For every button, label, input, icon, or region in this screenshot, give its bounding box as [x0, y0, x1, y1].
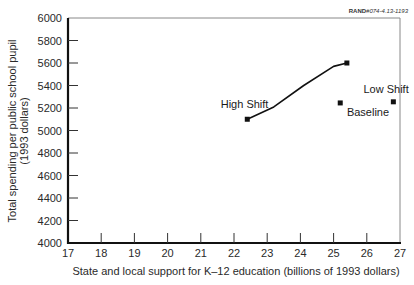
y-axis: 4000420044004600480050005200540056005800…	[38, 12, 78, 249]
x-tick-label: 27	[394, 247, 406, 259]
x-axis: 1718192021222324252627	[62, 233, 406, 259]
y-tick-label: 4400	[38, 192, 62, 204]
y-tick-label: 6000	[38, 12, 62, 24]
x-tick-label: 26	[361, 247, 373, 259]
x-tick-label: 17	[62, 247, 74, 259]
low-shift-marker	[391, 99, 396, 104]
x-tick-label: 24	[294, 247, 306, 259]
annotations: High ShiftBaselineLow Shift	[221, 83, 409, 118]
chart: 4000420044004600480050005200540056005800…	[0, 0, 414, 285]
y-tick-label: 4800	[38, 147, 62, 159]
figure-code: RAND#074-4.13-1193	[349, 8, 409, 14]
y-axis-title: Total spending per public school pupil	[6, 40, 18, 223]
y-axis-title-units: (1993 dollars)	[18, 97, 30, 164]
annotation-low-shift: Low Shift	[363, 83, 408, 95]
y-tick-label: 5400	[38, 80, 62, 92]
y-tick-label: 5200	[38, 102, 62, 114]
plot-frame	[67, 18, 401, 244]
baseline-marker	[338, 100, 343, 105]
x-tick-label: 19	[128, 247, 140, 259]
x-tick-label: 21	[195, 247, 207, 259]
high-shift-marker	[245, 117, 250, 122]
high-shift-line	[247, 63, 347, 119]
x-tick-label: 20	[161, 247, 173, 259]
y-tick-label: 4000	[38, 237, 62, 249]
y-tick-label: 5800	[38, 35, 62, 47]
annotation-high-shift: High Shift	[221, 98, 269, 110]
y-tick-label: 4600	[38, 170, 62, 182]
x-tick-label: 23	[261, 247, 273, 259]
high-shift-marker	[344, 61, 349, 66]
x-tick-label: 25	[327, 247, 339, 259]
y-tick-label: 4200	[38, 215, 62, 227]
y-tick-label: 5000	[38, 125, 62, 137]
y-tick-label: 5600	[38, 57, 62, 69]
x-tick-label: 18	[95, 247, 107, 259]
x-tick-label: 22	[228, 247, 240, 259]
x-axis-title: State and local support for K–12 educati…	[72, 265, 399, 277]
annotation-baseline: Baseline	[347, 106, 389, 118]
